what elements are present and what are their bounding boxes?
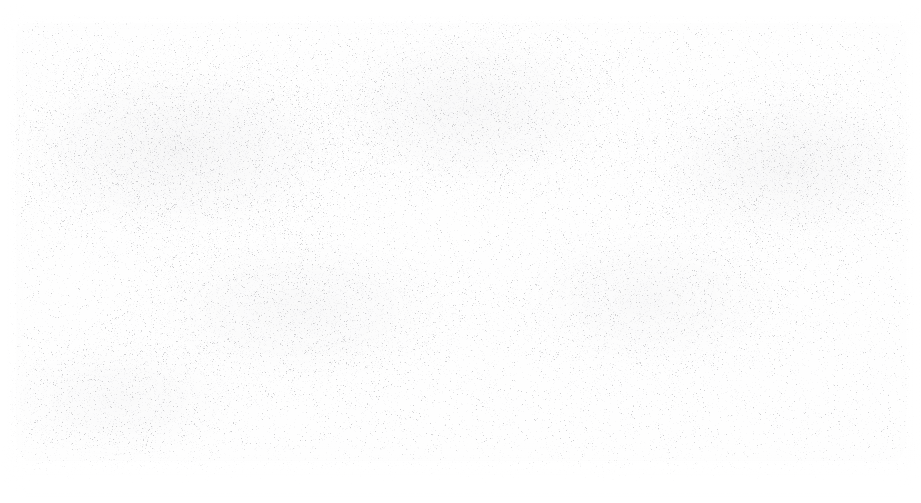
page-content	[0, 0, 921, 503]
scanned-page	[0, 0, 921, 503]
